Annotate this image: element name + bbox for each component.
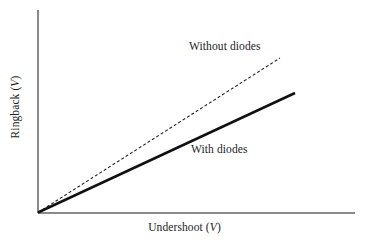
y-axis-title-prefix: Ringback ( [9, 86, 21, 138]
y-axis-title-container: Ringback (V) [0, 0, 30, 213]
x-axis-title-suffix: ) [217, 221, 221, 233]
x-axis-title-prefix: Undershoot ( [148, 221, 210, 233]
x-axis-title: Undershoot (V) [0, 221, 369, 233]
series-line-with-diodes [38, 93, 295, 213]
x-axis-unit: V [210, 221, 217, 233]
y-axis-title-suffix: ) [9, 75, 21, 79]
plot-canvas [0, 0, 369, 242]
series-line-without-diodes [38, 58, 280, 213]
chart-figure: Ringback (V) Undershoot (V) Without diod… [0, 0, 369, 242]
y-axis-unit: V [9, 79, 21, 86]
y-axis-title: Ringback (V) [9, 75, 21, 138]
series-label-with-diodes: With diodes [191, 143, 248, 155]
series-label-without-diodes: Without diodes [189, 40, 261, 52]
